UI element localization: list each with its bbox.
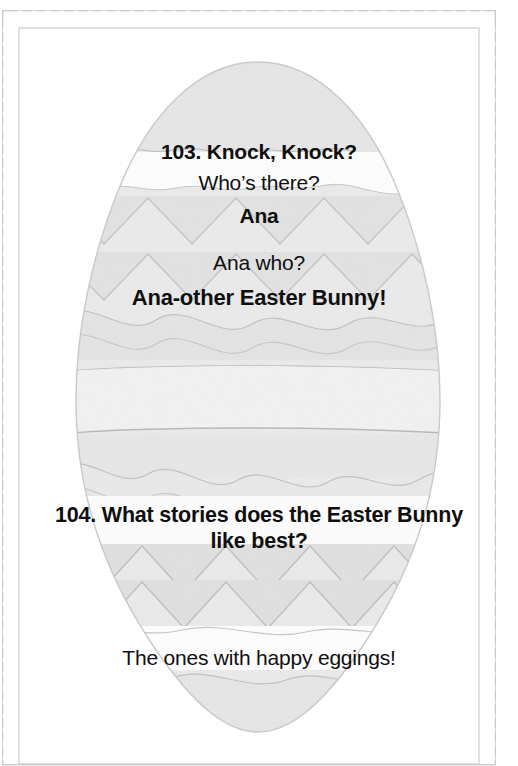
joke-103-name: Ana	[0, 205, 518, 227]
joke-103-punchline: Ana-other Easter Bunny!	[0, 286, 518, 309]
joke-104-punchline: The ones with happy eggings!	[0, 647, 518, 669]
joke-103-question: 103. Knock, Knock?	[0, 141, 518, 163]
joke-104-question-line-2: like best?	[0, 530, 518, 553]
joke-103-response: Who’s there?	[0, 172, 518, 194]
joke-103-follow-up: Ana who?	[0, 252, 518, 274]
joke-104-question-line-1: 104. What stories does the Easter Bunny	[0, 504, 518, 527]
